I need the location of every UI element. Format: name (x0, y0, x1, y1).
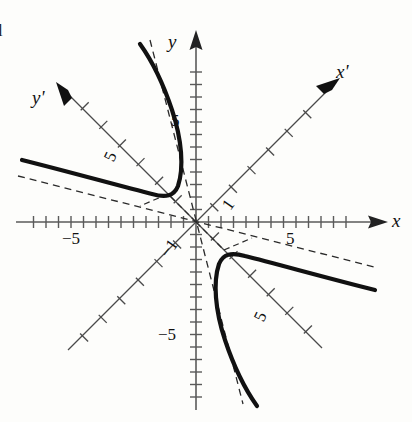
y-axis-tick-label-neg5: −5 (158, 326, 176, 343)
y-axis-arrowhead (190, 30, 203, 50)
x-axis-tick-label-neg5: −5 (62, 230, 80, 247)
y-axis-tick-label-5: 5 (171, 112, 180, 129)
x-axis-tick-label-5: 5 (286, 230, 295, 247)
y-prime-axis-label: y' (32, 88, 45, 107)
curve-branch-lower-right (216, 254, 375, 406)
figure-canvas (0, 0, 412, 422)
x-axis-arrowhead (368, 216, 388, 229)
x-axis-label: x (392, 211, 400, 230)
hyperbola-figure: y x x' y' 5 −5 −5 5 1 −1 5 5 l (0, 0, 412, 422)
corner-fragment-mark: l (0, 22, 3, 39)
x-prime-axis-label: x' (336, 62, 349, 81)
y-axis-label: y (168, 32, 176, 51)
y-prime-arrowhead (56, 82, 72, 106)
